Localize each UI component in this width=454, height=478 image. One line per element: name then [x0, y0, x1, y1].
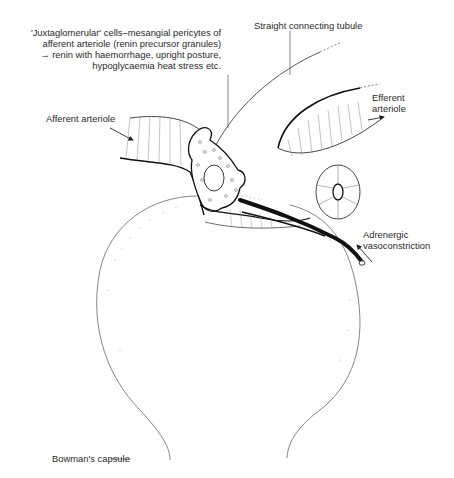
bowman-label: Bowman's capsule	[52, 453, 130, 464]
juxtaglomerular-line-1: 'Juxtaglomerular' cells–mesangial pericy…	[10, 27, 221, 38]
straight-tubule-label: Straight connecting tubule	[254, 20, 362, 31]
juxtaglomerular-label: 'Juxtaglomerular' cells–mesangial pericy…	[10, 27, 221, 71]
efferent-arteriole	[278, 84, 384, 156]
efferent-label: Efferent arteriole	[372, 92, 406, 114]
adrenergic-line-2: vasoconstriction	[363, 240, 430, 251]
juxtaglomerular-line-2: afferent arteriole (renin precursor gran…	[10, 38, 221, 49]
efferent-line-2: arteriole	[372, 103, 406, 114]
tubule-cross-section	[316, 165, 360, 219]
efferent-line-1: Efferent	[372, 92, 406, 103]
afferent-arteriole	[110, 116, 204, 215]
juxtaglomerular-line-3: → renin with haemorrhage, upright postur…	[10, 49, 221, 60]
adrenergic-label: Adrenergic vasoconstriction	[363, 229, 430, 251]
afferent-label: Afferent arteriole	[46, 113, 115, 124]
adrenergic-line-1: Adrenergic	[363, 229, 430, 240]
juxtaglomerular-line-4: hypoglycaemia heat stress etc.	[10, 60, 221, 71]
